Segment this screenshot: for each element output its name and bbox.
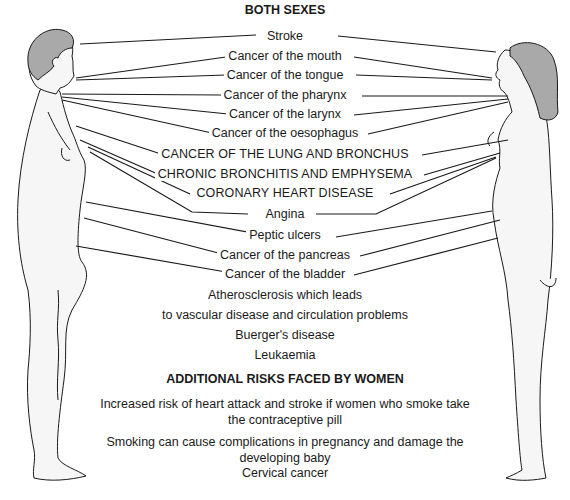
risk-label-atherosclerosis-2: to vascular disease and circulation prob… bbox=[0, 308, 570, 322]
both-sexes-heading: BOTH SEXES bbox=[0, 3, 570, 17]
risk-label-buergers-disease: Buerger's disease bbox=[0, 328, 570, 342]
risk-label-coronary-heart-disease: CORONARY HEART DISEASE bbox=[0, 186, 570, 200]
risk-label-pharynx-cancer: Cancer of the pharynx bbox=[0, 88, 570, 102]
women-risk-pregnancy-line-2: developing baby bbox=[0, 451, 570, 466]
risk-label-angina: Angina bbox=[0, 207, 570, 221]
risk-label-stroke: Stroke bbox=[0, 29, 570, 43]
risk-label-pancreas-cancer: Cancer of the pancreas bbox=[0, 248, 570, 262]
risk-label-bronchitis-emphysema: CHRONIC BRONCHITIS AND EMPHYSEMA bbox=[0, 167, 570, 181]
risk-label-mouth-cancer: Cancer of the mouth bbox=[0, 49, 570, 63]
women-risk-cervical-cancer: Cervical cancer bbox=[0, 466, 570, 481]
risk-label-peptic-ulcers: Peptic ulcers bbox=[0, 228, 570, 242]
risk-label-bladder-cancer: Cancer of the bladder bbox=[0, 267, 570, 281]
women-risk-pregnancy-line-1: Smoking can cause complications in pregn… bbox=[0, 435, 570, 450]
risk-label-leukaemia: Leukaemia bbox=[0, 348, 570, 362]
women-risk-pill-line-1: Increased risk of heart attack and strok… bbox=[0, 397, 570, 412]
women-risks-heading: ADDITIONAL RISKS FACED BY WOMEN bbox=[0, 372, 570, 386]
risk-label-atherosclerosis-1: Atherosclerosis which leads bbox=[0, 288, 570, 302]
risk-label-larynx-cancer: Cancer of the larynx bbox=[0, 107, 570, 121]
risk-label-oesophagus-cancer: Cancer of the oesophagus bbox=[0, 126, 570, 140]
women-risk-pill-line-2: the contraceptive pill bbox=[0, 413, 570, 428]
risk-label-tongue-cancer: Cancer of the tongue bbox=[0, 68, 570, 82]
risk-label-lung-cancer: CANCER OF THE LUNG AND BRONCHUS bbox=[0, 147, 570, 161]
